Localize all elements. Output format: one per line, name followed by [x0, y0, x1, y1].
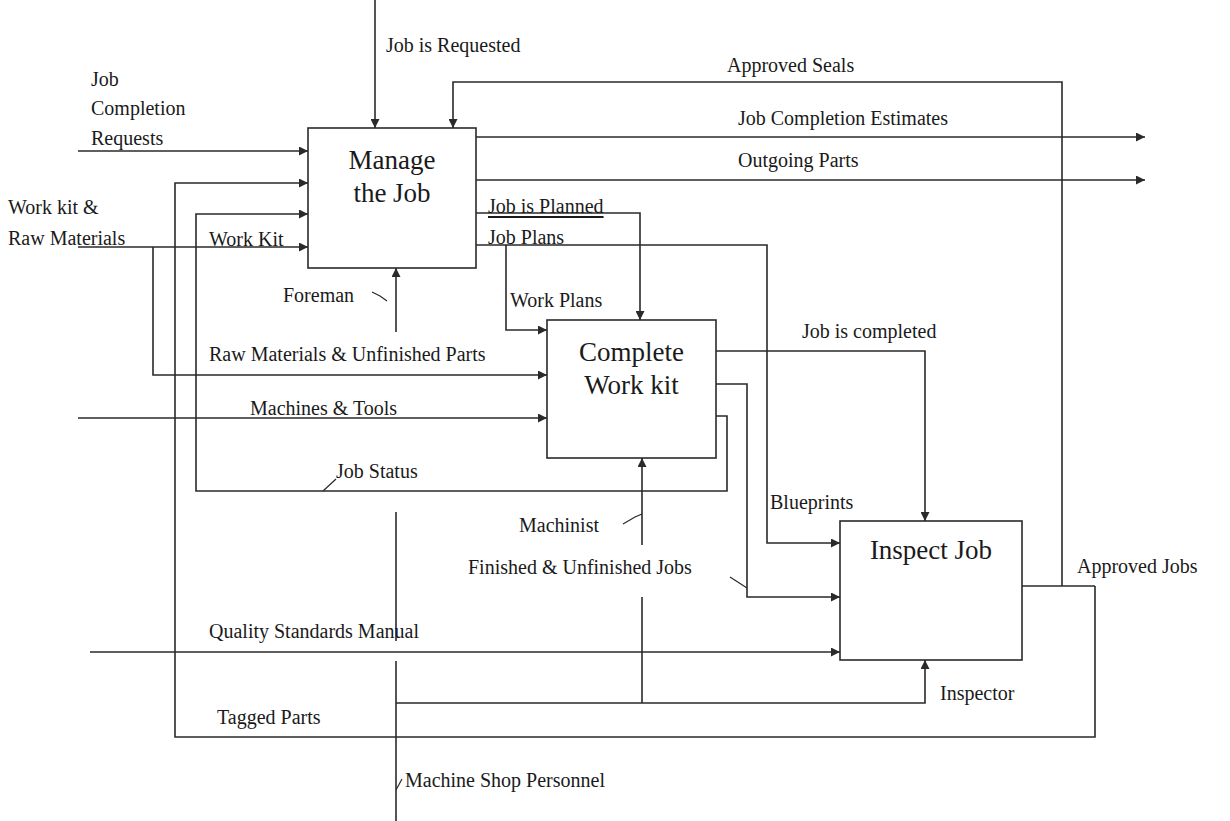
label-work-kit-raw-materials-1: Work kit &: [8, 196, 99, 218]
label-job-completion-estimates: Job Completion Estimates: [738, 107, 948, 129]
label-job-is-planned: Job is Planned: [488, 195, 604, 217]
label-quality-standards-manual: Quality Standards Manual: [209, 620, 419, 642]
activity-title-line2: Work kit: [547, 369, 716, 402]
leader-foreman: [372, 292, 387, 301]
label-job-plans: Job Plans: [488, 226, 564, 248]
idef0-diagram: [0, 0, 1230, 821]
label-foreman: Foreman: [283, 284, 354, 306]
label-work-kit-raw-materials-2: Raw Materials: [8, 227, 125, 249]
label-approved-jobs: Approved Jobs: [1077, 555, 1198, 577]
label-work-plans: Work Plans: [510, 289, 602, 311]
label-job-status: Job Status: [336, 460, 418, 482]
activity-title-line1: Manage: [308, 144, 476, 177]
label-finished-unfinished-jobs: Finished & Unfinished Jobs: [468, 556, 692, 578]
label-outgoing-parts: Outgoing Parts: [738, 149, 859, 171]
label-machines-tools: Machines & Tools: [250, 397, 397, 419]
activity-title-manage-the-job: Manage the Job: [308, 144, 476, 210]
label-work-kit: Work Kit: [209, 228, 284, 250]
label-job-is-requested: Job is Requested: [386, 34, 520, 56]
label-job-completion-requests-3: Requests: [91, 127, 163, 149]
leader-machinist: [623, 514, 642, 524]
activity-title-complete-work-kit: Complete Work kit: [547, 336, 716, 402]
leader-job-status: [323, 479, 336, 491]
activity-title-inspect-job: Inspect Job: [840, 534, 1022, 567]
activity-title-line2: the Job: [308, 177, 476, 210]
activity-title-line1: Inspect Job: [840, 534, 1022, 567]
label-approved-seals: Approved Seals: [727, 54, 854, 76]
label-raw-materials-unfinished-parts: Raw Materials & Unfinished Parts: [209, 343, 486, 365]
leader-machine-shop-personnel: [396, 779, 402, 790]
label-tagged-parts: Tagged Parts: [217, 706, 321, 728]
arrow-tagged-parts: [175, 183, 1095, 737]
label-inspector: Inspector: [940, 682, 1014, 704]
label-machine-shop-personnel: Machine Shop Personnel: [405, 769, 605, 791]
leader-finished-unfinished-jobs: [730, 577, 747, 588]
activity-title-line1: Complete: [547, 336, 716, 369]
label-job-completion-requests-2: Completion: [91, 97, 185, 119]
mechanism-inspector: [396, 660, 925, 703]
label-blueprints: Blueprints: [770, 491, 853, 513]
arrow-work-plans: [506, 245, 547, 330]
label-machinist: Machinist: [519, 514, 599, 536]
label-job-completion-requests-1: Job: [91, 68, 119, 90]
label-job-is-completed: Job is completed: [802, 320, 936, 342]
